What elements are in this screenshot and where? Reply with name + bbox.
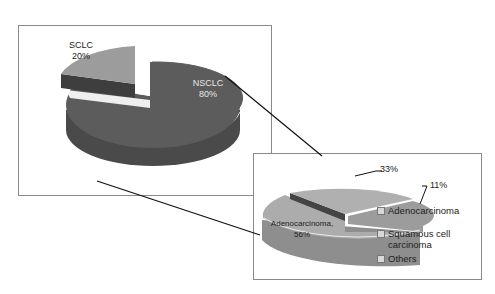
adenocarcinoma-data-label: Adenocarcinoma, 56% [266, 218, 338, 240]
legend-label-line2: carcinoma [388, 239, 432, 250]
others-data-label: 11% [430, 180, 447, 191]
sclc-label: SCLC 20% [63, 40, 99, 62]
legend-label-line1: Squamous cell [388, 228, 450, 239]
legend: Adenocarcinoma Squamous cell carcinoma O… [377, 205, 459, 267]
legend-label: Adenocarcinoma [388, 205, 459, 216]
legend-item-squamous: Squamous cell carcinoma [377, 228, 459, 250]
legend-label: Others [388, 253, 417, 264]
left-chart-frame [18, 25, 272, 196]
nsclc-name: NSCLC [188, 78, 228, 89]
nsclc-percent: 80% [188, 89, 228, 100]
nsclc-label: NSCLC 80% [188, 78, 228, 100]
legend-item-others: Others [377, 253, 459, 264]
legend-item-adenocarcinoma: Adenocarcinoma [377, 205, 459, 216]
adenocarcinoma-name: Adenocarcinoma, [266, 218, 338, 229]
sclc-name: SCLC [63, 40, 99, 51]
sclc-percent: 20% [63, 51, 99, 62]
legend-swatch [377, 207, 385, 215]
legend-swatch [377, 255, 385, 263]
squamous-data-label: 33% [380, 164, 398, 175]
adenocarcinoma-percent: 56% [266, 229, 338, 240]
legend-swatch [377, 230, 385, 238]
legend-label: Squamous cell carcinoma [388, 228, 450, 250]
